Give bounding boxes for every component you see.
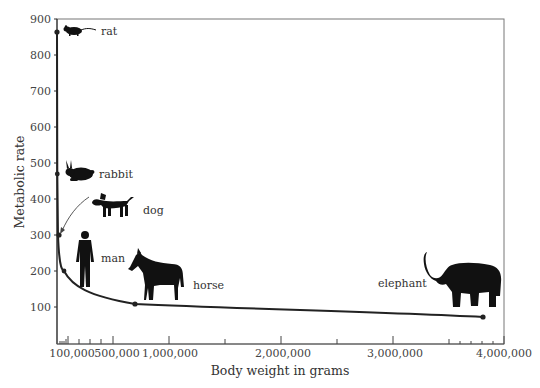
rat-icon [64, 25, 97, 36]
dog-pointer-arrow [62, 197, 89, 231]
x-tick-label: 4,000,000 [476, 347, 532, 360]
point-elephant [480, 314, 485, 319]
y-tick-label: 900 [30, 13, 51, 26]
point-rabbit [55, 172, 60, 177]
y-axis-title: Metabolic rate [12, 135, 27, 228]
x-tick-label: 3,000,000 [367, 347, 423, 360]
label-rat: rat [101, 25, 118, 38]
y-tick-labels: 900 800 700 600 500 400 300 200 100 [30, 13, 51, 314]
label-horse: horse [193, 279, 224, 292]
x-ticks [60, 336, 504, 344]
label-dog: dog [143, 204, 164, 217]
y-tick-label: 600 [30, 121, 51, 134]
plot-frame [57, 19, 504, 344]
y-tick-label: 400 [30, 193, 51, 206]
man-icon [76, 231, 94, 287]
x-tick-label: 100,000 [49, 347, 95, 360]
label-man: man [101, 252, 125, 265]
point-horse [132, 301, 137, 306]
label-elephant: elephant [378, 277, 427, 290]
horse-icon [128, 248, 184, 300]
label-rabbit: rabbit [99, 168, 133, 181]
chart-canvas: 900 800 700 600 500 400 300 200 100 100,… [0, 0, 540, 388]
x-tick-labels: 100,000 500,000 1,000,000 2,000,000 3,00… [49, 347, 532, 360]
x-tick-label: 2,000,000 [255, 347, 311, 360]
x-axis-title: Body weight in grams [211, 363, 350, 378]
x-tick-label: 500,000 [94, 347, 140, 360]
rabbit-icon [66, 160, 95, 181]
elephant-icon [424, 252, 502, 307]
point-man [62, 269, 67, 274]
arrowhead-icon [60, 227, 65, 234]
y-tick-label: 100 [30, 301, 51, 314]
y-tick-label: 800 [30, 49, 51, 62]
point-rat [54, 29, 59, 34]
y-tick-label: 200 [30, 265, 51, 278]
y-tick-label: 700 [30, 85, 51, 98]
dog-icon [92, 193, 134, 217]
y-tick-label: 300 [30, 229, 51, 242]
x-tick-label: 1,000,000 [142, 347, 198, 360]
y-tick-label: 500 [30, 157, 51, 170]
